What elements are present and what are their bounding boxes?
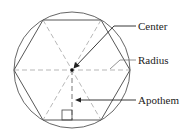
- apothem-label: Apothem: [138, 94, 179, 106]
- right-angle-marker: [62, 110, 72, 120]
- radius-leader: [110, 60, 136, 69]
- center-point: [70, 68, 74, 72]
- hexagon-diagram: Center Radius Apothem: [0, 0, 193, 133]
- center-label: Center: [138, 20, 168, 32]
- apothem-arrowhead: [75, 98, 81, 103]
- radius-label: Radius: [138, 54, 169, 66]
